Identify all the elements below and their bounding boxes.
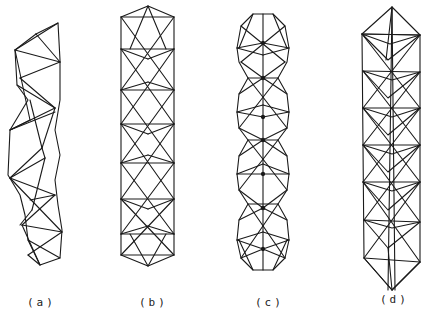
panel-b-label: (b): [139, 296, 168, 309]
panel-c-label: (c): [255, 296, 284, 309]
panel-a-label: (a): [27, 296, 56, 309]
panel-a-structure: [8, 23, 62, 265]
panel-b-structure: [121, 6, 174, 266]
panel-c-structure: [237, 14, 289, 270]
panel-d-structure: [362, 7, 420, 290]
truss-figure: [0, 0, 431, 316]
panel-d-label: (d): [380, 293, 409, 306]
